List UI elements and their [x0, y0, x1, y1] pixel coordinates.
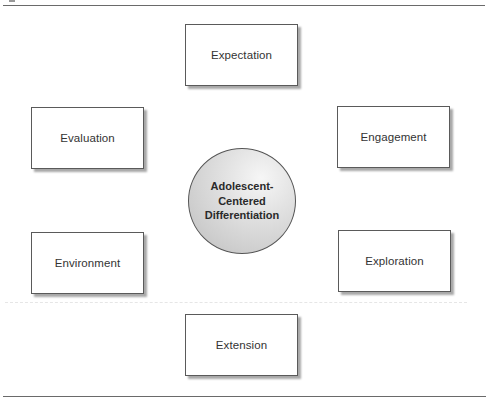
bottom-rule: [3, 396, 486, 397]
cropped-figure-label-fragment: [9, 0, 15, 2]
node-engagement: Engagement: [337, 106, 450, 168]
top-rule: [3, 5, 485, 6]
node-environment: Environment: [31, 232, 144, 294]
faint-divider: [5, 302, 467, 303]
node-label: Engagement: [360, 131, 426, 143]
node-label: Evaluation: [60, 132, 115, 144]
node-evaluation: Evaluation: [31, 107, 144, 169]
node-label: Environment: [55, 257, 121, 269]
node-expectation: Expectation: [185, 24, 298, 86]
center-label-line-3: Differentiation: [205, 208, 280, 223]
center-concept-circle: Adolescent- Centered Differentiation: [188, 148, 296, 254]
center-label-line-1: Adolescent-: [211, 179, 274, 194]
node-exploration: Exploration: [338, 230, 451, 292]
node-label: Extension: [216, 339, 267, 351]
node-label: Expectation: [211, 49, 272, 61]
node-label: Exploration: [365, 255, 424, 267]
node-extension: Extension: [185, 314, 298, 376]
center-label-line-2: Centered: [218, 194, 266, 209]
